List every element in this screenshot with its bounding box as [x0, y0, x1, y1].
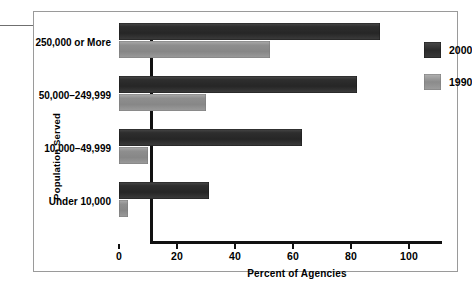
bar-2000-4 — [119, 182, 209, 199]
x-tick-label: 80 — [345, 250, 357, 262]
dark-gray-swatch-icon — [424, 42, 441, 58]
x-tick-label: 60 — [287, 250, 299, 262]
bar-2000-2 — [119, 76, 357, 93]
x-tick — [176, 244, 178, 249]
x-tick — [118, 244, 120, 249]
x-tick-label: 40 — [229, 250, 241, 262]
bar-1990-4 — [119, 200, 128, 217]
chart-frame: Population Served Percent of Agencies 20… — [33, 11, 458, 272]
legend-label-2000: 2000 — [449, 44, 472, 56]
x-tick — [292, 244, 294, 249]
chart-legend: 2000 1990 — [424, 38, 472, 102]
legend-item-2000[interactable]: 2000 — [424, 38, 472, 62]
left-rule — [0, 25, 34, 26]
x-tick — [234, 244, 236, 249]
x-tick — [350, 244, 352, 249]
bar-1990-3 — [119, 147, 148, 164]
x-tick-label: 100 — [400, 250, 418, 262]
x-tick-label: 0 — [116, 250, 122, 262]
bar-1990-2 — [119, 94, 206, 111]
y-category-label: 250,000 or More — [0, 37, 111, 48]
bar-1990-1 — [119, 41, 270, 58]
x-axis-title: Percent of Agencies — [152, 268, 442, 279]
y-category-label: 10,000–49,999 — [0, 143, 111, 154]
y-category-label: 50,000–249,999 — [0, 90, 111, 101]
light-gray-swatch-icon — [424, 74, 441, 90]
legend-label-1990: 1990 — [449, 76, 472, 88]
bar-2000-3 — [119, 129, 302, 146]
legend-item-1990[interactable]: 1990 — [424, 70, 472, 94]
bar-2000-1 — [119, 23, 380, 40]
y-category-label: Under 10,000 — [0, 196, 111, 207]
x-tick — [408, 244, 410, 249]
x-tick-label: 20 — [171, 250, 183, 262]
